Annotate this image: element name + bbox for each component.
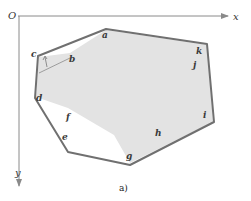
point-label-b: b: [69, 54, 75, 64]
point-label-h: h: [155, 128, 162, 138]
point-label-e: e: [62, 132, 68, 142]
point-label-k: k: [196, 46, 202, 56]
figure-caption: a): [119, 183, 128, 193]
y-axis-label: y: [14, 167, 21, 178]
point-label-a: a: [102, 30, 108, 40]
point-label-d: d: [36, 93, 43, 103]
origin-label: O: [8, 10, 16, 21]
convex-hull-diagram: O x y a b c d e f g h i j k a): [0, 0, 251, 201]
point-label-g: g: [126, 151, 132, 161]
point-label-c: c: [31, 49, 37, 59]
x-axis-label: x: [233, 11, 239, 22]
point-label-i: i: [203, 110, 207, 120]
